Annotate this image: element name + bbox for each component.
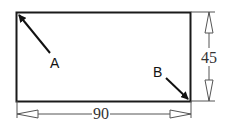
arrow-left-icon (17, 110, 38, 118)
arrow-down-icon (205, 80, 213, 101)
dimensioned-rectangle-diagram: A B 90 45 (0, 0, 233, 130)
arrow-a (19, 15, 50, 53)
arrow-b (166, 78, 188, 99)
rectangle (17, 13, 191, 102)
arrow-up-icon (205, 12, 213, 33)
label-a: A (50, 55, 60, 71)
arrow-right-icon (170, 110, 191, 118)
label-b: B (153, 64, 162, 80)
dimension-height-label: 45 (201, 49, 217, 66)
dimension-width-label: 90 (93, 105, 109, 122)
